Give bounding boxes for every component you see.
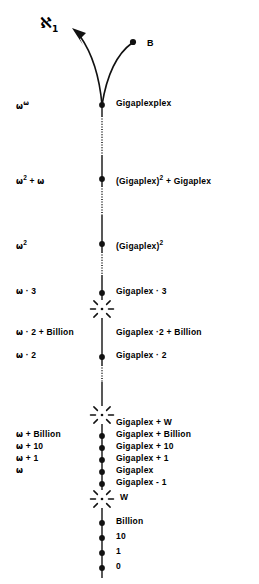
left-label-gigaplex: ω bbox=[16, 466, 23, 475]
right-label-burst-lower: W bbox=[120, 493, 128, 502]
left-label-gigaplex-plus-1: ω + 1 bbox=[16, 454, 38, 463]
ordinal-dot-one bbox=[99, 550, 105, 556]
left-label-gigaplex-times-2: ω · 2 bbox=[16, 351, 36, 360]
ordinal-dot-gigaplex-plus-1 bbox=[99, 457, 105, 463]
burst-ray bbox=[94, 491, 98, 495]
burst-ray bbox=[107, 314, 111, 318]
right-label-gigaplexplex: Gigaplexplex bbox=[116, 99, 171, 108]
point-b-label: B bbox=[147, 38, 154, 48]
aleph-one-label: ℵ1 bbox=[40, 14, 58, 34]
burst-ray bbox=[107, 504, 111, 508]
burst-ray bbox=[107, 301, 111, 305]
right-label-one: 1 bbox=[116, 547, 121, 556]
burst-ray bbox=[94, 420, 98, 424]
burst-center-burst-upper bbox=[101, 308, 104, 311]
left-label-gigaplex-plus-10: ω + 10 bbox=[16, 442, 43, 451]
left-label-gigaplex-sq-plus-gigaplex: ω2 + ω bbox=[16, 173, 44, 186]
ordinal-dot-gigaplex-minus-1 bbox=[99, 481, 105, 487]
ordinal-dot-gigaplex-plus-10 bbox=[99, 445, 105, 451]
right-label-gigaplex-plus-10: Gigaplex + 10 bbox=[116, 442, 174, 451]
ordinal-line-diagram: ℵ1 B ωωω2 + ωω2ω · 3ω · 2 + Billionω · 2… bbox=[0, 0, 259, 584]
left-label-gigaplex-squared: ω2 bbox=[16, 238, 27, 251]
burst-center-burst-lower bbox=[101, 498, 104, 501]
burst-ray bbox=[94, 504, 98, 508]
left-label-gigaplex-times-2-plus-billion: ω · 2 + Billion bbox=[16, 328, 74, 337]
ordinal-dot-ten bbox=[99, 535, 105, 541]
ordinal-dot-gigaplex-times-3 bbox=[99, 290, 105, 296]
right-label-gigaplex-plus-1: Gigaplex + 1 bbox=[116, 454, 169, 463]
aleph-subscript: 1 bbox=[52, 24, 58, 34]
burst-center-burst-middle bbox=[101, 414, 104, 417]
left-label-gigaplex-plus-billion: ω + Billion bbox=[16, 430, 61, 439]
left-label-gigaplex-times-3: ω · 3 bbox=[16, 287, 36, 296]
burst-ray bbox=[94, 301, 98, 305]
burst-ray bbox=[94, 407, 98, 411]
branch-curves bbox=[72, 28, 136, 105]
ordinal-dot-gigaplex-plus-billion bbox=[99, 433, 105, 439]
right-label-gigaplex-plus-w: Gigaplex + W bbox=[116, 418, 172, 427]
right-label-billion: Billion bbox=[116, 517, 143, 526]
burst-ray bbox=[107, 407, 111, 411]
right-label-ten: 10 bbox=[116, 532, 126, 541]
right-label-gigaplex-times-2-plus-billion: Gigaplex ·2 + Billion bbox=[116, 328, 202, 337]
point-b-dot bbox=[130, 39, 136, 45]
ordinal-dot-zero bbox=[99, 565, 105, 571]
burst-ray bbox=[107, 491, 111, 495]
right-label-gigaplex-minus-1: Gigaplex - 1 bbox=[116, 478, 167, 487]
burst-ray bbox=[107, 420, 111, 424]
ordinal-dot-gigaplex-squared bbox=[99, 241, 105, 247]
aleph-glyph: ℵ bbox=[40, 14, 52, 32]
curve-to-b bbox=[102, 43, 132, 105]
right-label-gigaplex-times-2: Gigaplex · 2 bbox=[116, 351, 167, 360]
right-label-gigaplex-squared: (Gigaplex)2 bbox=[116, 238, 163, 251]
curve-to-aleph1 bbox=[80, 36, 102, 105]
ordinal-dot-gigaplex-sq-plus-gigaplex bbox=[99, 176, 105, 182]
right-label-zero: 0 bbox=[116, 562, 121, 571]
right-label-gigaplex-times-3: Gigaplex · 3 bbox=[116, 287, 167, 296]
left-label-gigaplexplex: ωω bbox=[16, 99, 29, 111]
ordinal-dot-gigaplex-times-2 bbox=[99, 354, 105, 360]
ordinal-dot-billion bbox=[99, 520, 105, 526]
ordinal-dot-gigaplex bbox=[99, 469, 105, 475]
right-label-gigaplex-plus-billion: Gigaplex + Billion bbox=[116, 430, 191, 439]
right-label-gigaplex: Gigaplex bbox=[116, 466, 154, 475]
burst-ray bbox=[94, 314, 98, 318]
right-label-gigaplex-sq-plus-gigaplex: (Gigaplex)2 + Gigaplex bbox=[116, 173, 211, 186]
